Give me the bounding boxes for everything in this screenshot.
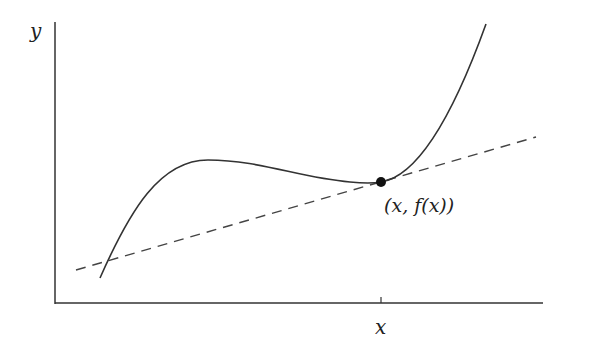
y-axis-label: y	[29, 19, 42, 43]
function-curve	[100, 24, 486, 278]
tangent-point	[376, 177, 386, 187]
point-label: (x, f(x))	[384, 194, 454, 216]
x-axis-label: x	[375, 315, 386, 339]
tangent-line-diagram: y x (x, f(x))	[0, 0, 590, 351]
tangent-line	[76, 137, 536, 270]
